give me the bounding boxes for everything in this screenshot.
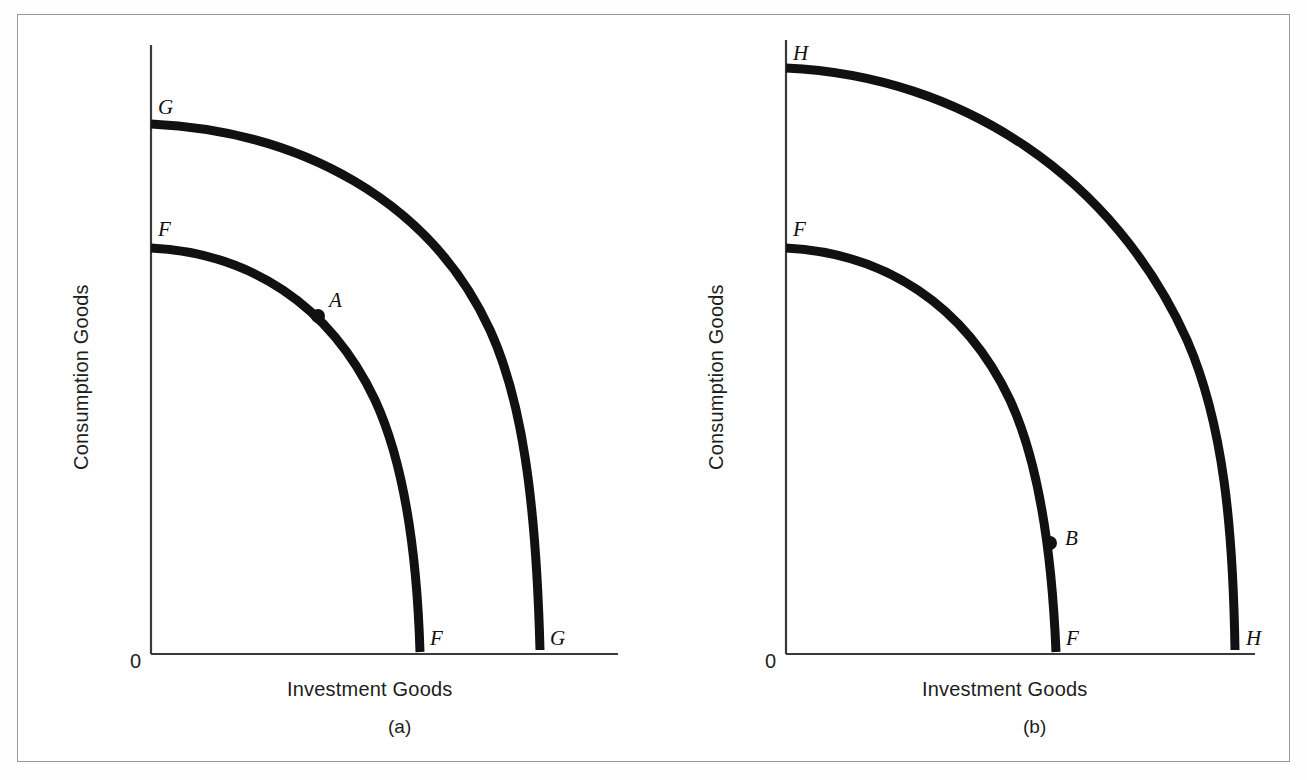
panel-a-caption: (a) [388, 716, 411, 738]
panel-b: H F B F H 0 Consumption Goods Investment… [635, 0, 1295, 780]
panel-a-label-g-top: G [158, 95, 173, 119]
panel-b-y-axis-title: Consumption Goods [705, 284, 728, 470]
panel-b-curve-h [786, 68, 1235, 650]
panel-a-origin-label: 0 [130, 650, 141, 672]
panel-b-point-b-dot [1043, 536, 1057, 550]
panel-a-y-axis-title: Consumption Goods [70, 284, 93, 470]
panel-b-label-f-top: F [792, 217, 806, 241]
panel-b-plot: H F B F H 0 [635, 0, 1295, 780]
panel-a-plot: G F A F G 0 [0, 0, 660, 780]
panel-b-label-h-top: H [792, 41, 810, 65]
panel-b-curve-f [786, 248, 1056, 652]
panel-a-curve-f [151, 248, 420, 652]
panel-b-label-h-bottom: H [1245, 626, 1263, 650]
figure-root: G F A F G 0 Consumption Goods Investment… [0, 0, 1307, 780]
panel-a-point-a-dot [311, 309, 325, 323]
panel-b-label-point-b: B [1065, 526, 1078, 550]
panel-a-label-f-bottom: F [429, 626, 443, 650]
panel-b-caption: (b) [1023, 716, 1046, 738]
panel-a-x-axis-title: Investment Goods [287, 678, 453, 701]
panel-a-label-g-bottom: G [550, 626, 565, 650]
panel-a-curve-g [151, 124, 540, 650]
panel-b-label-f-bottom: F [1065, 626, 1079, 650]
panel-b-origin-label: 0 [765, 650, 776, 672]
panel-a-label-f-top: F [157, 217, 171, 241]
panel-a-label-point-a: A [327, 288, 342, 312]
panel-a: G F A F G 0 Consumption Goods Investment… [0, 0, 660, 780]
panel-b-x-axis-title: Investment Goods [922, 678, 1088, 701]
